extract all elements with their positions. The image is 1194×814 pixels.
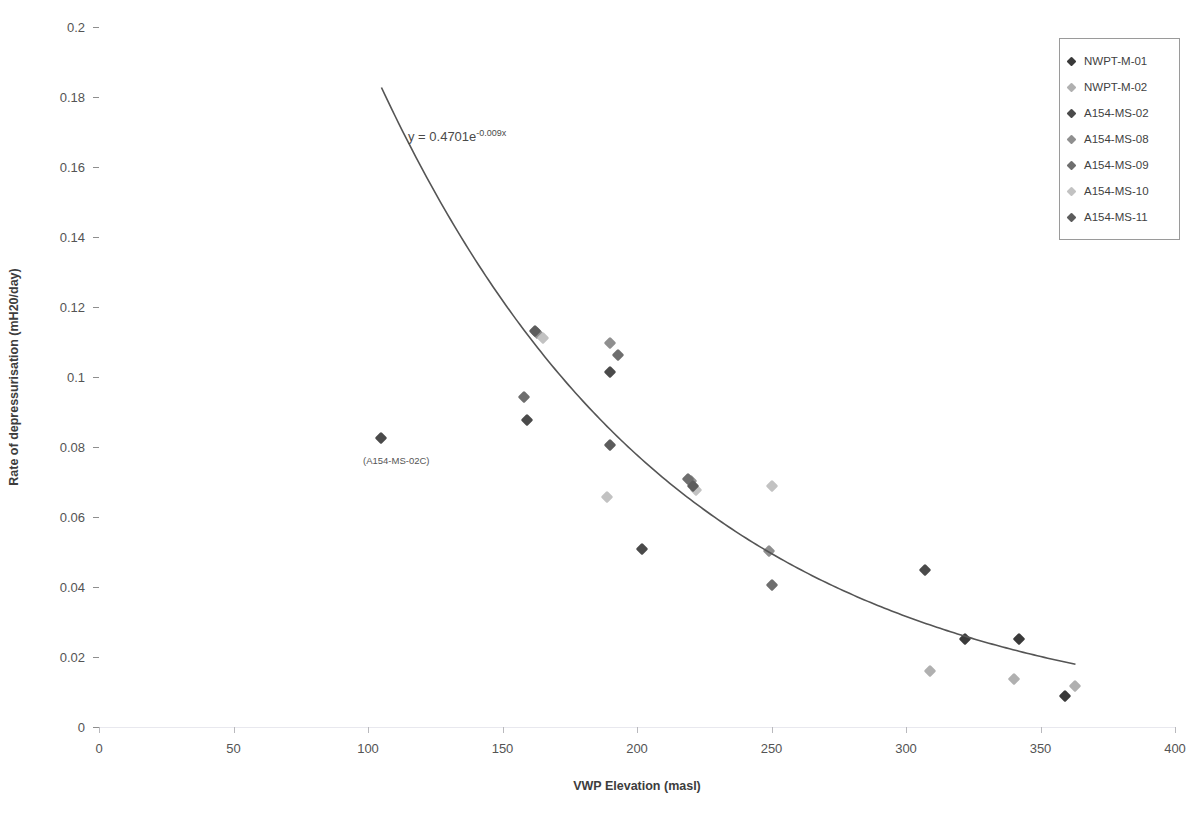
- data-point[interactable]: [1007, 673, 1020, 686]
- y-axis-title: Rate of depressurisation (mH20/day): [7, 268, 21, 485]
- data-point[interactable]: [601, 490, 614, 503]
- data-point[interactable]: [636, 543, 649, 556]
- y-axis-tick-label: 0.1: [67, 370, 85, 385]
- x-axis-tick-label: 0: [95, 741, 102, 756]
- data-point[interactable]: [604, 366, 617, 379]
- legend[interactable]: NWPT-M-01NWPT-M-02A154-MS-02A154-MS-08A1…: [1059, 38, 1180, 240]
- legend-item-label: A154-MS-10: [1084, 185, 1149, 197]
- y-axis-tick-label: 0.12: [60, 300, 85, 315]
- legend-marker-icon: [1067, 108, 1077, 118]
- point-annotation-label: (A154-MS-02C): [363, 455, 430, 466]
- legend-item[interactable]: NWPT-M-02: [1068, 74, 1173, 100]
- legend-item[interactable]: A154-MS-09: [1068, 152, 1173, 178]
- y-axis-tick-label: 0.2: [67, 20, 85, 35]
- legend-item[interactable]: A154-MS-08: [1068, 126, 1173, 152]
- legend-marker-icon: [1067, 134, 1077, 144]
- x-axis-tick-label: 300: [895, 741, 917, 756]
- legend-marker-icon: [1067, 186, 1077, 196]
- legend-item-label: A154-MS-08: [1084, 133, 1149, 145]
- data-point[interactable]: [765, 479, 778, 492]
- equation-exponent: -0.009x: [476, 128, 506, 138]
- scatter-chart: 00.020.040.060.080.10.120.140.160.180.2 …: [0, 0, 1194, 814]
- x-axis-title: VWP Elevation (masl): [573, 779, 701, 793]
- x-axis-tick: [99, 727, 100, 733]
- x-axis-tick-label: 200: [626, 741, 648, 756]
- x-axis-tick: [772, 727, 773, 733]
- plot-area: [99, 27, 1175, 727]
- legend-item[interactable]: NWPT-M-01: [1068, 48, 1173, 74]
- x-axis-tick: [503, 727, 504, 733]
- x-axis-tick-label: 250: [761, 741, 783, 756]
- legend-item[interactable]: A154-MS-02: [1068, 100, 1173, 126]
- legend-marker-icon: [1067, 212, 1077, 222]
- legend-item-label: A154-MS-02: [1084, 107, 1149, 119]
- legend-item-label: A154-MS-11: [1084, 211, 1148, 223]
- trendline-equation-label: y = 0.4701e-0.009x: [408, 128, 506, 144]
- data-point[interactable]: [959, 633, 972, 646]
- data-point[interactable]: [924, 665, 937, 678]
- legend-item-label: NWPT-M-01: [1084, 55, 1147, 67]
- data-point[interactable]: [765, 579, 778, 592]
- x-axis-tick: [637, 727, 638, 733]
- x-axis-tick: [368, 727, 369, 733]
- x-axis-tick: [1041, 727, 1042, 733]
- legend-item[interactable]: A154-MS-11: [1068, 204, 1173, 230]
- data-point[interactable]: [1013, 632, 1026, 645]
- y-axis-tick-label: 0.16: [60, 160, 85, 175]
- x-axis-tick-label: 400: [1164, 741, 1186, 756]
- x-axis-tick-label: 350: [1030, 741, 1052, 756]
- legend-item-label: NWPT-M-02: [1084, 81, 1147, 93]
- data-point[interactable]: [520, 413, 533, 426]
- y-axis-tick-label: 0.02: [60, 650, 85, 665]
- x-axis-tick-label: 50: [226, 741, 240, 756]
- data-point[interactable]: [918, 563, 931, 576]
- data-point[interactable]: [604, 337, 617, 350]
- y-axis-tick-label: 0.14: [60, 230, 85, 245]
- data-point[interactable]: [612, 348, 625, 361]
- data-point[interactable]: [604, 439, 617, 452]
- y-axis-tick-label: 0.18: [60, 90, 85, 105]
- y-axis-tick-label: 0.08: [60, 440, 85, 455]
- x-axis-tick-label: 100: [357, 741, 379, 756]
- x-axis-tick: [234, 727, 235, 733]
- legend-marker-icon: [1067, 160, 1077, 170]
- legend-item[interactable]: A154-MS-10: [1068, 178, 1173, 204]
- y-axis-tick-label: 0: [78, 720, 85, 735]
- data-point[interactable]: [762, 544, 775, 557]
- data-point[interactable]: [1069, 680, 1082, 693]
- data-point[interactable]: [518, 391, 531, 404]
- x-axis-tick: [906, 727, 907, 733]
- legend-marker-icon: [1067, 82, 1077, 92]
- x-axis-tick-label: 150: [492, 741, 514, 756]
- equation-base: y = 0.4701e: [408, 129, 476, 144]
- legend-item-label: A154-MS-09: [1084, 159, 1149, 171]
- y-axis-tick-label: 0.04: [60, 580, 85, 595]
- data-point[interactable]: [1058, 689, 1071, 702]
- y-axis-tick-label: 0.06: [60, 510, 85, 525]
- legend-marker-icon: [1067, 56, 1077, 66]
- data-point[interactable]: [375, 432, 388, 445]
- x-axis-tick: [1175, 727, 1176, 733]
